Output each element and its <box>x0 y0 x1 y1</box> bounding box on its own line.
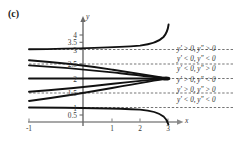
xtick-label-2: 2 <box>132 124 148 133</box>
xtick-label-3: 3 <box>160 124 176 133</box>
convergence-point <box>162 76 171 80</box>
xtick-label-neg1: -1 <box>21 124 37 133</box>
legend-item-6: y' < 0, y" < 0 <box>177 95 241 105</box>
ytick-label-2: 2 <box>59 75 77 84</box>
ytick-label-0p5: 0.5 <box>55 111 77 120</box>
xtick-label-1: 1 <box>104 124 120 133</box>
legend-item-4: y' > 0, y" < 0 <box>177 75 241 85</box>
solution-curves <box>29 25 169 125</box>
y-axis-arrow <box>80 16 85 22</box>
legend-item-3: y' < 0, y" > 0 <box>177 64 241 74</box>
legend-item-2: y' < 0, y" < 0 <box>177 54 241 64</box>
legend: y' > 0, y" > 0 y' < 0, y" < 0 y' < 0, y"… <box>177 44 241 105</box>
y-axis-label: y <box>86 12 89 21</box>
ytick-label-1p5: 1.5 <box>55 89 77 98</box>
x-axis-arrow <box>177 119 184 125</box>
legend-item-5: y' > 0, y" > 0 <box>177 85 241 95</box>
legend-item-1: y' > 0, y" > 0 <box>177 44 241 54</box>
ytick-label-2p5: 2.5 <box>55 60 77 69</box>
curve-above-3-blowup <box>29 25 169 50</box>
x-axis-label: x <box>185 116 188 125</box>
ytick-label-3: 3 <box>59 46 77 55</box>
